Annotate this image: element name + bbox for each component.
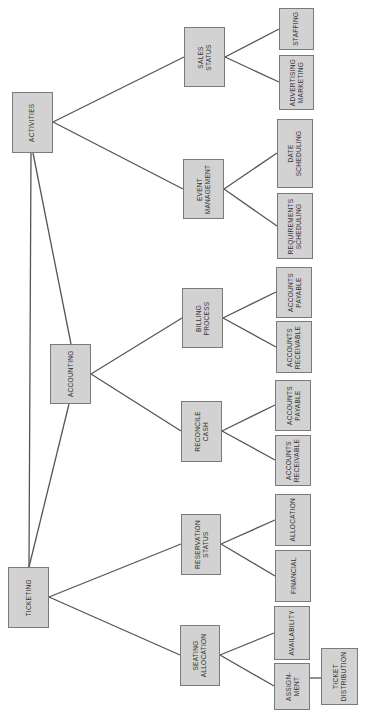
node-label: ACCOUNTS PAYABLE	[286, 386, 301, 425]
node-label: ACCOUNTS PAYABLE	[287, 273, 302, 312]
edge-activities-sales	[53, 57, 184, 122]
node-staffing: STAFFING	[279, 8, 314, 50]
edge-sales-advertising	[225, 57, 279, 82]
edge-seating-availability	[220, 633, 274, 655]
node-label: SEATING ALLOCATION	[193, 634, 208, 678]
edge-sales-staffing	[225, 29, 279, 57]
node-label: ACTIVITIES	[29, 103, 37, 141]
node-label: AVAILABILITY	[288, 610, 296, 655]
node-date-scheduling: DATE SCHEDULING	[277, 119, 313, 188]
node-availability: AVAILABILITY	[274, 606, 310, 660]
node-label: REQUIREMENTS SCHEDULING	[288, 198, 303, 254]
node-activities: ACTIVITIES	[12, 92, 53, 153]
node-reconcile-cash: RECONCILE CASH	[181, 401, 222, 462]
node-allocation: ALLOCATION	[275, 494, 311, 546]
edge-ticketing-reservation	[49, 544, 181, 597]
node-ticketing: TICKETING	[8, 567, 49, 628]
edge-accounting-billing	[91, 318, 182, 374]
node-label: ASSIGN- MENT	[284, 672, 299, 701]
edge-event-date	[224, 153, 277, 189]
node-reconcile-accounts-receivable: ACCOUNTS RECEIVABLE	[275, 435, 311, 486]
node-label: FINANCIAL	[289, 558, 297, 595]
edge-seating-assignment	[220, 655, 274, 686]
node-label: RESERVATION STATUS	[194, 520, 209, 569]
node-label: ACCOUNTS RECEIVABLE	[286, 439, 301, 482]
node-label: DATE SCHEDULING	[288, 131, 303, 177]
node-sales-status: SALES STATUS	[184, 27, 225, 87]
edge-ticketing-seating	[49, 597, 180, 655]
edge-reconcile-ar	[222, 431, 275, 460]
edge-reservation-allocation	[221, 520, 275, 544]
node-seating-allocation: SEATING ALLOCATION	[180, 625, 220, 686]
node-label: ACCOUNTS RECEIVABLE	[287, 325, 302, 368]
node-label: ADVERTISING MARKETING	[289, 59, 304, 106]
node-label: RECONCILE CASH	[194, 411, 209, 452]
node-label: TICKET DISTRIBUTION	[332, 652, 347, 701]
node-requirements-scheduling: REQUIREMENTS SCHEDULING	[277, 193, 313, 259]
node-label: ALLOCATION	[289, 498, 297, 542]
edge-reservation-financial	[221, 544, 275, 576]
node-billing-process: BILLING PROCESS	[182, 288, 223, 348]
node-accounting: ACCOUNTING	[50, 344, 91, 404]
node-assignment: ASSIGN- MENT	[274, 663, 310, 710]
edge-activities-accounting	[33, 153, 71, 344]
node-billing-accounts-payable: ACCOUNTS PAYABLE	[276, 267, 312, 318]
edge-activities-ticketing	[29, 153, 31, 567]
node-ticket-distribution: TICKET DISTRIBUTION	[321, 648, 358, 705]
node-label: ACCOUNTING	[67, 351, 75, 398]
node-billing-accounts-receivable: ACCOUNTS RECEIVABLE	[276, 321, 312, 373]
edge-billing-ap	[223, 292, 276, 318]
node-label: BILLING PROCESS	[195, 301, 210, 335]
node-label: STAFFING	[293, 12, 301, 46]
edge-accounting-reconcile	[91, 374, 181, 431]
node-reservation-status: RESERVATION STATUS	[181, 514, 221, 575]
node-label: EVENT MANAGEMENT	[196, 164, 211, 214]
edge-activities-event	[53, 122, 183, 189]
node-financial: FINANCIAL	[275, 550, 311, 602]
edge-accounting-ticketing	[29, 404, 69, 567]
edge-reconcile-ap	[222, 405, 275, 431]
node-event-management: EVENT MANAGEMENT	[183, 159, 224, 219]
node-label: TICKETING	[25, 579, 33, 616]
edge-billing-ar	[223, 318, 276, 347]
edge-event-requirements	[224, 189, 277, 226]
node-label: SALES STATUS	[197, 44, 212, 70]
node-reconcile-accounts-payable: ACCOUNTS PAYABLE	[275, 380, 311, 431]
node-advertising-marketing: ADVERTISING MARKETING	[279, 55, 314, 110]
